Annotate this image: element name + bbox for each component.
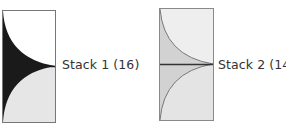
stack-1-shape xyxy=(2,10,56,123)
stack-1-label: Stack 1 (16) xyxy=(62,57,139,72)
stack-1-diagram xyxy=(2,10,56,123)
stack-2-shape xyxy=(159,8,214,121)
stack-2-label: Stack 2 (14) xyxy=(218,57,286,72)
stack-2-diagram xyxy=(159,8,214,121)
